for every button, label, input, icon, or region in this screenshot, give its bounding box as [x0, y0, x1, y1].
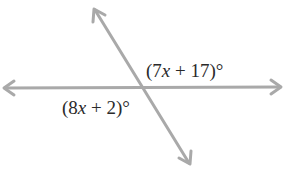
angle-label-variable: x: [162, 60, 170, 81]
angle-label-upper-right: (7x + 17)°: [146, 61, 223, 80]
angle-label-suffix: + 2)°: [86, 97, 130, 118]
angle-label-variable: x: [78, 97, 86, 118]
angle-diagram: [0, 0, 291, 169]
angle-label-suffix: + 17)°: [170, 60, 223, 81]
angle-label-prefix: (8: [62, 97, 78, 118]
angle-label-prefix: (7: [146, 60, 162, 81]
angle-label-lower-left: (8x + 2)°: [62, 98, 130, 117]
